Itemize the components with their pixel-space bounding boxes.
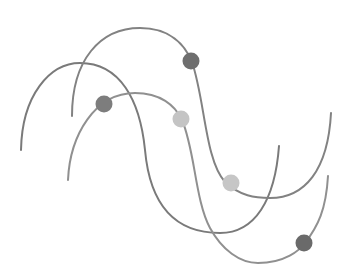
dot-light-right xyxy=(223,175,240,192)
wave-illustration xyxy=(0,0,354,276)
dot-dark-bottom xyxy=(296,235,313,252)
wave-lines xyxy=(21,28,331,263)
wave-illustration-svg xyxy=(0,0,354,276)
dot-light-center xyxy=(173,111,190,128)
dot-dark-top xyxy=(183,53,200,70)
wave-dots xyxy=(96,53,313,252)
wave-c-line xyxy=(68,93,328,263)
wave-b-line xyxy=(72,28,331,198)
wave-a-line xyxy=(21,63,279,233)
dot-mid-left xyxy=(96,96,113,113)
